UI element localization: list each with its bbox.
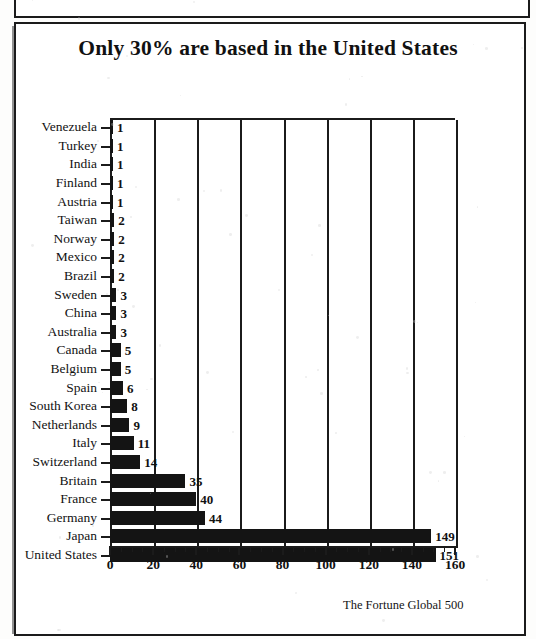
x-tick-minor xyxy=(304,546,305,552)
category-label: United States xyxy=(25,548,97,562)
category-tick xyxy=(101,295,110,297)
category-label: India xyxy=(69,158,97,172)
bar-row: Canada5 xyxy=(110,341,530,360)
bar-value-label: 5 xyxy=(125,344,132,357)
x-axis: 020406080100120140160 xyxy=(110,546,455,548)
bar xyxy=(110,157,113,171)
x-tick-minor xyxy=(358,546,359,552)
scanned-page: FORTUNE 500 Only 30% are based in the Un… xyxy=(0,0,536,639)
category-tick xyxy=(101,313,110,315)
x-tick-major xyxy=(454,546,456,555)
category-tick xyxy=(101,257,110,259)
bar-row: Germany44 xyxy=(110,508,530,527)
x-tick-minor xyxy=(250,546,251,552)
category-label: Sweden xyxy=(54,288,97,302)
bar-value-label: 1 xyxy=(117,195,124,208)
category-tick xyxy=(101,462,110,464)
bar-row: Finland1 xyxy=(110,174,530,193)
bar-value-label: 1 xyxy=(117,121,124,134)
category-tick xyxy=(101,536,110,538)
category-label: Italy xyxy=(72,437,97,451)
bar xyxy=(110,343,121,357)
category-tick xyxy=(101,443,110,445)
x-tick-minor xyxy=(315,546,316,552)
bar-row: South Korea8 xyxy=(110,397,530,416)
category-label: Spain xyxy=(66,381,97,395)
bar xyxy=(110,511,205,525)
category-tick xyxy=(101,499,110,501)
x-tick-label: 60 xyxy=(233,558,247,572)
bar xyxy=(110,306,116,320)
bar xyxy=(110,474,185,488)
x-tick-minor xyxy=(207,546,208,552)
category-tick xyxy=(101,164,110,166)
category-label: South Korea xyxy=(29,399,97,413)
category-tick xyxy=(101,127,110,129)
bar-row: China3 xyxy=(110,304,530,323)
bar-row: Norway2 xyxy=(110,230,530,249)
category-label: Brazil xyxy=(64,269,97,283)
bar xyxy=(110,529,431,543)
category-tick xyxy=(101,332,110,334)
category-tick xyxy=(101,239,110,241)
category-label: Venezuela xyxy=(42,121,97,135)
x-tick-major xyxy=(282,546,284,555)
category-label: Switzerland xyxy=(33,455,97,469)
x-tick-label: 20 xyxy=(146,558,160,572)
bar-row: Switzerland14 xyxy=(110,453,530,472)
bar-row: Venezuela1 xyxy=(110,118,530,137)
x-tick-label: 140 xyxy=(402,558,422,572)
x-tick-major xyxy=(195,546,197,555)
bar-value-label: 1 xyxy=(117,139,124,152)
bar-value-label: 1 xyxy=(117,158,124,171)
x-tick-major xyxy=(109,546,111,555)
bar xyxy=(110,492,196,506)
bar-value-label: 2 xyxy=(118,251,125,264)
x-tick-minor xyxy=(380,546,381,552)
bar-row: Japan149 xyxy=(110,527,530,546)
x-tick-minor xyxy=(423,546,424,552)
x-tick-label: 160 xyxy=(445,558,465,572)
x-tick-major xyxy=(411,546,413,555)
category-label: Austria xyxy=(57,195,97,209)
bar-value-label: 35 xyxy=(189,474,202,487)
category-tick xyxy=(101,146,110,148)
x-tick-minor xyxy=(229,546,230,552)
x-tick-major xyxy=(325,546,327,555)
x-tick-minor xyxy=(132,546,133,552)
category-tick xyxy=(101,202,110,204)
category-tick xyxy=(101,481,110,483)
category-tick xyxy=(101,183,110,185)
bar-value-label: 3 xyxy=(120,307,127,320)
x-tick-minor xyxy=(433,546,434,552)
category-label: Australia xyxy=(48,325,98,339)
bar-value-label: 5 xyxy=(125,363,132,376)
category-label: France xyxy=(60,492,97,506)
bar-value-label: 2 xyxy=(118,270,125,283)
bar-value-label: 40 xyxy=(200,493,213,506)
bar-row: Belgium5 xyxy=(110,360,530,379)
bar xyxy=(110,362,121,376)
bar xyxy=(110,213,114,227)
bar-value-label: 9 xyxy=(133,418,140,431)
bar-value-label: 149 xyxy=(435,530,455,543)
category-label: Mexico xyxy=(56,251,97,265)
bar-value-label: 2 xyxy=(118,232,125,245)
category-label: Japan xyxy=(66,530,97,544)
bar-value-label: 1 xyxy=(117,177,124,190)
category-tick xyxy=(101,220,110,222)
bar-row: Sweden3 xyxy=(110,285,530,304)
x-tick-minor xyxy=(347,546,348,552)
bar xyxy=(110,250,114,264)
category-tick xyxy=(101,276,110,278)
category-label: Britain xyxy=(60,474,98,488)
bar-row: Austria1 xyxy=(110,192,530,211)
x-tick-minor xyxy=(293,546,294,552)
x-tick-minor xyxy=(142,546,143,552)
x-tick-label: 100 xyxy=(316,558,336,572)
x-tick-major xyxy=(368,546,370,555)
bar xyxy=(110,418,129,432)
x-tick-minor xyxy=(401,546,402,552)
source-note: The Fortune Global 500 xyxy=(343,598,463,613)
x-tick-minor xyxy=(272,546,273,552)
